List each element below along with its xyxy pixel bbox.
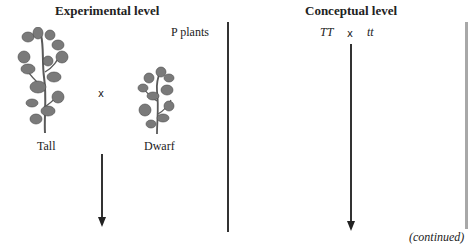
experimental-arrow-shaft: [101, 154, 103, 218]
genotype-cross-symbol: x: [347, 28, 353, 39]
tall-label: Tall: [37, 139, 56, 154]
cross-symbol: x: [98, 88, 104, 99]
dwarf-pea-plant-icon: [135, 66, 177, 136]
dwarf-label: Dwarf: [144, 139, 175, 154]
conceptual-arrow-shaft: [350, 44, 352, 222]
tall-pea-plant-icon: [14, 27, 76, 135]
genotype-tt-recessive: tt: [367, 25, 374, 40]
conceptual-arrow-head-icon: [347, 221, 355, 231]
experimental-arrow-head-icon: [98, 217, 106, 227]
experimental-level-heading: Experimental level: [55, 3, 159, 19]
p-plants-label: P plants: [171, 25, 209, 40]
side-bar: [465, 22, 468, 229]
continued-note: (continued): [409, 230, 464, 245]
conceptual-level-heading: Conceptual level: [305, 3, 397, 19]
column-divider: [227, 22, 229, 232]
genotype-tt-dominant: TT: [320, 25, 333, 40]
